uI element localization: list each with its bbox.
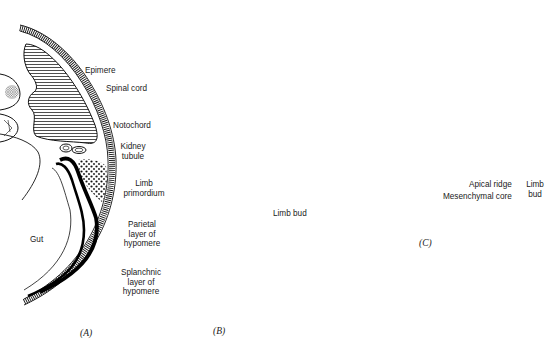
- label-apical-ridge: Apical ridge: [469, 180, 512, 190]
- label-parietal-line3: hypomere: [122, 239, 162, 249]
- label-gut: Gut: [30, 235, 43, 245]
- label-limb-primordium-line2: primordium: [122, 189, 166, 199]
- limb-development-figure: [0, 0, 552, 352]
- label-limb-primordium-line1: Limb: [122, 179, 166, 189]
- label-parietal-line1: Parietal: [122, 220, 162, 230]
- label-splanchnic-line2: layer of: [118, 278, 164, 288]
- label-spinal-cord: Spinal cord: [106, 84, 147, 94]
- label-limb-bud: Limb bud: [273, 209, 307, 219]
- label-limb-bud-c: Limb bud: [522, 180, 548, 199]
- label-kidney-line1: Kidney: [114, 142, 152, 152]
- label-splanchnic-layer: Splanchnic layer of hypomere: [118, 268, 164, 297]
- label-limb-bud-c-line2: bud: [522, 190, 548, 200]
- label-limb-primordium: Limb primordium: [122, 179, 166, 198]
- label-kidney-line2: tubule: [114, 152, 152, 162]
- label-limb-bud-c-line1: Limb: [522, 180, 548, 190]
- panel-label-c: (C): [419, 238, 432, 248]
- label-notochord: Notochord: [113, 121, 151, 131]
- panel-label-b: (B): [213, 326, 225, 336]
- label-splanchnic-line1: Splanchnic: [118, 268, 164, 278]
- gut-a: [0, 134, 40, 200]
- label-kidney-tubule: Kidney tubule: [114, 142, 152, 161]
- label-epimere: Epimere: [85, 66, 116, 76]
- label-splanchnic-line3: hypomere: [118, 287, 164, 297]
- panel-label-a: (A): [80, 328, 92, 338]
- label-mesenchymal-core: Mesenchymal core: [443, 192, 512, 202]
- label-parietal-layer: Parietal layer of hypomere: [122, 220, 162, 249]
- epimere-a: [24, 44, 97, 143]
- label-parietal-line2: layer of: [122, 230, 162, 240]
